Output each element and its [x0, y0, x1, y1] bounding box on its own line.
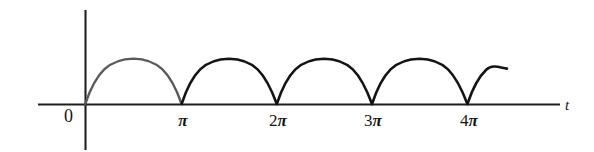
curve-arc-3: [277, 59, 372, 104]
x-axis-variable-label: t: [565, 98, 569, 113]
tick-2pi-coefficient: 2: [269, 111, 278, 130]
origin-tick-label: 0: [64, 107, 73, 125]
tick-label-pi: π: [174, 112, 192, 129]
tick-4pi-coefficient: 4: [460, 111, 469, 130]
curve-arc-2: [182, 59, 277, 104]
pi-glyph: π: [278, 111, 287, 130]
tick-label-2pi: 2π: [263, 112, 293, 129]
tick-3pi-coefficient: 3: [364, 111, 373, 130]
curve-arc-1: [85, 59, 181, 104]
pi-glyph: π: [178, 111, 187, 130]
pi-glyph: π: [469, 111, 478, 130]
rectified-sine-plot: [0, 0, 594, 152]
plot-figure: 0 π 2π 3π 4π t: [0, 0, 594, 152]
curve-arc-5-partial: [467, 67, 507, 104]
curve-arc-4: [372, 59, 467, 104]
tick-label-4pi: 4π: [454, 112, 484, 129]
tick-label-3pi: 3π: [358, 112, 388, 129]
pi-glyph: π: [373, 111, 382, 130]
